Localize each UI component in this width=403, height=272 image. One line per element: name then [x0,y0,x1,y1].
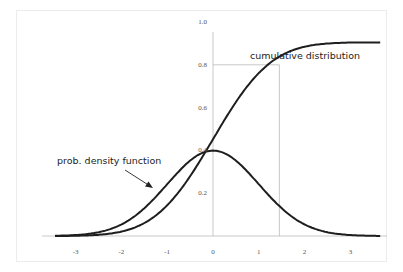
cdf-curve [55,42,380,236]
x-tick-label: -3 [73,248,79,256]
x-tick-label: -1 [164,248,170,256]
pdf-label: prob. density function [57,155,161,166]
x-tick-label: 1 [257,248,261,256]
axes [42,32,387,236]
y-tick-label: 0.2 [198,189,207,197]
y-tick-label: 1.0 [198,18,207,26]
guide-lines [213,65,279,236]
arrow-icon [125,170,153,188]
y-tick-label: 0.4 [198,146,207,154]
x-tick-label: 3 [349,248,353,256]
normal-distribution-chart: -3-2-101230.20.40.60.81.0 cumulative dis… [0,0,403,272]
cdf-label: cumulative distribution [250,50,360,61]
y-tick-label: 0.8 [198,61,207,69]
y-tick-label: 0.6 [198,104,207,112]
x-tick-label: -2 [118,248,124,256]
x-tick-label: 2 [303,248,307,256]
curves [55,42,380,236]
x-tick-label: 0 [211,248,215,256]
